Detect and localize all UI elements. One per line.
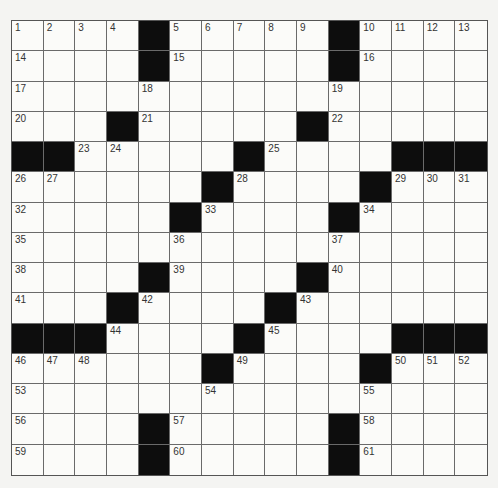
grid-cell[interactable] [75,414,107,444]
grid-cell[interactable]: 38 [12,263,44,293]
grid-cell[interactable] [455,445,487,475]
grid-cell[interactable] [202,293,234,323]
grid-cell[interactable] [107,445,139,475]
grid-cell[interactable] [329,324,361,354]
grid-cell[interactable] [75,51,107,81]
grid-cell[interactable] [170,324,202,354]
grid-cell[interactable] [424,293,456,323]
grid-cell[interactable] [424,51,456,81]
grid-cell[interactable] [139,354,171,384]
grid-cell[interactable] [360,233,392,263]
grid-cell[interactable]: 46 [12,354,44,384]
grid-cell[interactable]: 61 [360,445,392,475]
grid-cell[interactable] [360,293,392,323]
grid-cell[interactable] [234,112,266,142]
grid-cell[interactable]: 57 [170,414,202,444]
grid-cell[interactable]: 40 [329,263,361,293]
grid-cell[interactable] [170,112,202,142]
grid-cell[interactable]: 29 [392,172,424,202]
grid-cell[interactable] [44,112,76,142]
grid-cell[interactable] [170,384,202,414]
grid-cell[interactable]: 10 [360,21,392,51]
grid-cell[interactable] [297,82,329,112]
grid-cell[interactable]: 25 [265,142,297,172]
grid-cell[interactable]: 21 [139,112,171,142]
grid-cell[interactable]: 53 [12,384,44,414]
grid-cell[interactable] [265,354,297,384]
grid-cell[interactable] [75,293,107,323]
grid-cell[interactable] [107,82,139,112]
grid-cell[interactable] [75,172,107,202]
grid-cell[interactable]: 15 [170,51,202,81]
grid-cell[interactable] [455,293,487,323]
grid-cell[interactable]: 12 [424,21,456,51]
grid-cell[interactable] [170,354,202,384]
grid-cell[interactable] [265,445,297,475]
grid-cell[interactable]: 27 [44,172,76,202]
grid-cell[interactable] [139,203,171,233]
grid-cell[interactable] [265,112,297,142]
grid-cell[interactable] [455,263,487,293]
grid-cell[interactable]: 42 [139,293,171,323]
grid-cell[interactable] [75,263,107,293]
grid-cell[interactable] [392,233,424,263]
grid-cell[interactable] [265,172,297,202]
grid-cell[interactable]: 13 [455,21,487,51]
grid-cell[interactable] [455,82,487,112]
grid-cell[interactable] [424,112,456,142]
grid-cell[interactable] [265,414,297,444]
grid-cell[interactable] [329,293,361,323]
grid-cell[interactable]: 11 [392,21,424,51]
grid-cell[interactable] [455,51,487,81]
grid-cell[interactable] [392,293,424,323]
grid-cell[interactable] [234,82,266,112]
grid-cell[interactable] [107,51,139,81]
grid-cell[interactable]: 36 [170,233,202,263]
grid-cell[interactable] [265,82,297,112]
grid-cell[interactable] [44,82,76,112]
grid-cell[interactable]: 49 [234,354,266,384]
grid-cell[interactable] [424,263,456,293]
grid-cell[interactable] [139,324,171,354]
grid-cell[interactable] [170,172,202,202]
grid-cell[interactable] [265,384,297,414]
grid-cell[interactable] [139,172,171,202]
grid-cell[interactable]: 14 [12,51,44,81]
grid-cell[interactable] [392,414,424,444]
grid-cell[interactable]: 31 [455,172,487,202]
grid-cell[interactable] [392,82,424,112]
grid-cell[interactable] [329,142,361,172]
grid-cell[interactable] [139,142,171,172]
grid-cell[interactable] [75,112,107,142]
grid-cell[interactable] [265,51,297,81]
grid-cell[interactable] [392,112,424,142]
grid-cell[interactable] [265,203,297,233]
grid-cell[interactable] [139,384,171,414]
grid-cell[interactable] [202,142,234,172]
grid-cell[interactable]: 45 [265,324,297,354]
grid-cell[interactable]: 23 [75,142,107,172]
grid-cell[interactable] [44,384,76,414]
grid-cell[interactable] [424,82,456,112]
grid-cell[interactable] [44,293,76,323]
grid-cell[interactable] [455,414,487,444]
grid-cell[interactable] [75,233,107,263]
grid-cell[interactable] [202,263,234,293]
grid-cell[interactable] [392,445,424,475]
grid-cell[interactable] [170,82,202,112]
grid-cell[interactable] [424,414,456,444]
grid-cell[interactable]: 60 [170,445,202,475]
grid-cell[interactable] [202,112,234,142]
grid-cell[interactable]: 30 [424,172,456,202]
grid-cell[interactable]: 51 [424,354,456,384]
grid-cell[interactable] [297,233,329,263]
grid-cell[interactable] [202,233,234,263]
grid-cell[interactable]: 47 [44,354,76,384]
grid-cell[interactable] [392,263,424,293]
grid-cell[interactable] [329,384,361,414]
grid-cell[interactable] [297,203,329,233]
grid-cell[interactable] [202,324,234,354]
grid-cell[interactable] [455,384,487,414]
grid-cell[interactable] [297,445,329,475]
grid-cell[interactable] [360,142,392,172]
